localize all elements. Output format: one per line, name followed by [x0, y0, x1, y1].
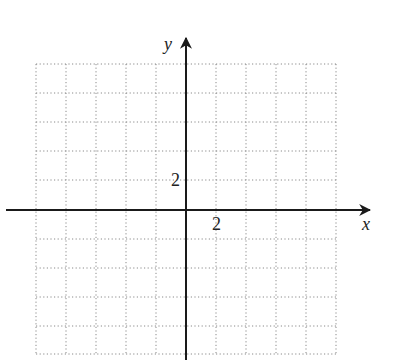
coordinate-plane: y x 2 2 — [0, 0, 398, 360]
y-axis-label: y — [162, 34, 172, 54]
x-axis-label: x — [361, 214, 370, 234]
y-tick-label-2: 2 — [171, 170, 180, 190]
x-tick-label-2: 2 — [212, 214, 221, 234]
